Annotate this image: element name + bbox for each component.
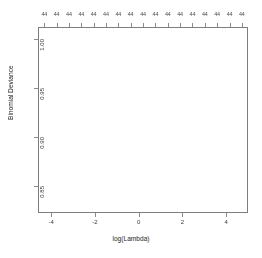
top-axis-tick bbox=[180, 23, 181, 27]
x-axis-tick bbox=[226, 213, 227, 217]
top-axis-tick bbox=[230, 23, 231, 27]
x-axis-tick bbox=[182, 213, 183, 217]
top-axis-tick-label: 44 bbox=[214, 12, 220, 17]
x-axis-tick-label: -2 bbox=[92, 219, 97, 225]
y-axis-tick-label: 0.90 bbox=[39, 137, 45, 149]
y-axis-tick-label: 0.85 bbox=[39, 186, 45, 198]
top-axis-tick bbox=[81, 23, 82, 27]
cv-glmnet-plot: 4444444444444444444444444444444444 -4-20… bbox=[0, 0, 262, 258]
x-axis-title: log(Lambda) bbox=[0, 235, 262, 242]
top-axis-tick bbox=[44, 23, 45, 27]
top-axis-tick-label: 44 bbox=[190, 12, 196, 17]
x-axis-tick-label: 0 bbox=[137, 219, 140, 225]
top-axis-tick bbox=[131, 23, 132, 27]
top-axis-nonzero-counts: 4444444444444444444444444444444444 bbox=[38, 27, 248, 28]
top-axis-tick-label: 44 bbox=[239, 12, 245, 17]
top-axis-tick-label: 44 bbox=[202, 12, 208, 17]
y-axis-title: Binomial Deviance bbox=[7, 65, 14, 120]
top-axis-tick-label: 44 bbox=[140, 12, 146, 17]
x-axis-tick-label: -4 bbox=[48, 219, 53, 225]
top-axis-tick bbox=[205, 23, 206, 27]
top-axis-tick-label: 44 bbox=[91, 12, 97, 17]
top-axis-tick bbox=[242, 23, 243, 27]
y-axis-tick-label: 1.00 bbox=[39, 39, 45, 51]
top-axis-tick-label: 44 bbox=[41, 12, 47, 17]
x-axis-tick bbox=[139, 213, 140, 217]
top-axis-tick-label: 44 bbox=[78, 12, 84, 17]
top-axis-tick bbox=[118, 23, 119, 27]
top-axis-tick-label: 44 bbox=[115, 12, 121, 17]
y-axis: 0.850.900.951.00 bbox=[38, 27, 39, 213]
top-axis-tick bbox=[94, 23, 95, 27]
y-axis-tick bbox=[34, 39, 38, 40]
x-axis-tick bbox=[51, 213, 52, 217]
y-axis-tick bbox=[34, 137, 38, 138]
y-axis-tick bbox=[34, 88, 38, 89]
top-axis-tick bbox=[106, 23, 107, 27]
top-axis-tick bbox=[168, 23, 169, 27]
x-axis-tick-label: 4 bbox=[224, 219, 227, 225]
top-axis-tick bbox=[155, 23, 156, 27]
x-axis: -4-2024 bbox=[38, 213, 248, 214]
top-axis-tick-label: 44 bbox=[153, 12, 159, 17]
top-axis-tick bbox=[192, 23, 193, 27]
top-axis-tick bbox=[217, 23, 218, 27]
y-axis-tick bbox=[34, 186, 38, 187]
top-axis-tick-label: 44 bbox=[227, 12, 233, 17]
top-axis-tick-label: 44 bbox=[66, 12, 72, 17]
plot-frame bbox=[38, 27, 248, 213]
x-axis-tick-label: 2 bbox=[181, 219, 184, 225]
top-axis-tick bbox=[143, 23, 144, 27]
top-axis-tick-label: 44 bbox=[103, 12, 109, 17]
top-axis-tick-label: 44 bbox=[165, 12, 171, 17]
top-axis-tick bbox=[57, 23, 58, 27]
top-axis-tick-label: 44 bbox=[128, 12, 134, 17]
top-axis-tick-label: 44 bbox=[54, 12, 60, 17]
top-axis-tick-label: 44 bbox=[177, 12, 183, 17]
y-axis-tick-label: 0.95 bbox=[39, 88, 45, 100]
top-axis-tick bbox=[69, 23, 70, 27]
x-axis-tick bbox=[95, 213, 96, 217]
